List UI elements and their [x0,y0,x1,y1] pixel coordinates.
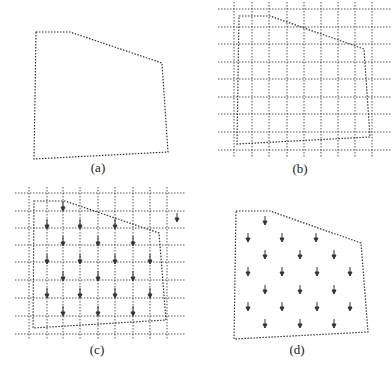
panel-a-label: (a) [91,160,105,176]
figure-canvas [0,0,392,367]
panel-d [234,211,368,339]
grid [218,2,392,158]
polygon-outline [234,211,368,339]
polygon-outline [33,201,166,328]
panel-b [218,2,392,158]
panel-a [34,32,168,159]
panel-d-label: (d) [289,342,304,358]
panel-b-label: (b) [292,161,307,177]
panel-c-label: (c) [90,342,104,358]
arrows [246,216,352,328]
polygon-outline [34,32,168,159]
arrows [45,201,179,316]
panel-c [15,187,186,340]
grid [15,187,186,340]
